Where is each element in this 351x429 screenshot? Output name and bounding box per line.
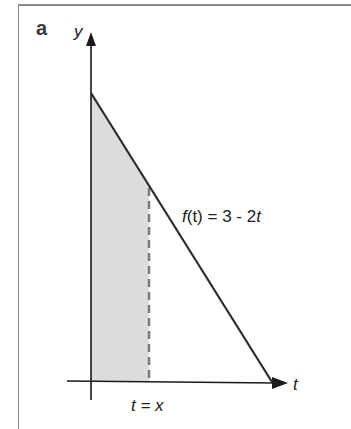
function-label: f(t) = 3 - 2t bbox=[182, 207, 262, 226]
diagram: y t f(t) = 3 - 2t t = x bbox=[0, 0, 351, 429]
marker-label: t = x bbox=[131, 396, 164, 415]
function-label-rest: (t) = 3 - 2 bbox=[187, 207, 256, 226]
t-axis-label: t bbox=[293, 375, 299, 394]
t-axis-arrow-icon bbox=[272, 377, 288, 389]
y-axis-label: y bbox=[73, 22, 84, 41]
y-axis-arrow-icon bbox=[86, 32, 96, 46]
function-label-t: t bbox=[256, 207, 262, 226]
t-axis bbox=[67, 381, 276, 383]
shaded-area bbox=[91, 93, 149, 381]
